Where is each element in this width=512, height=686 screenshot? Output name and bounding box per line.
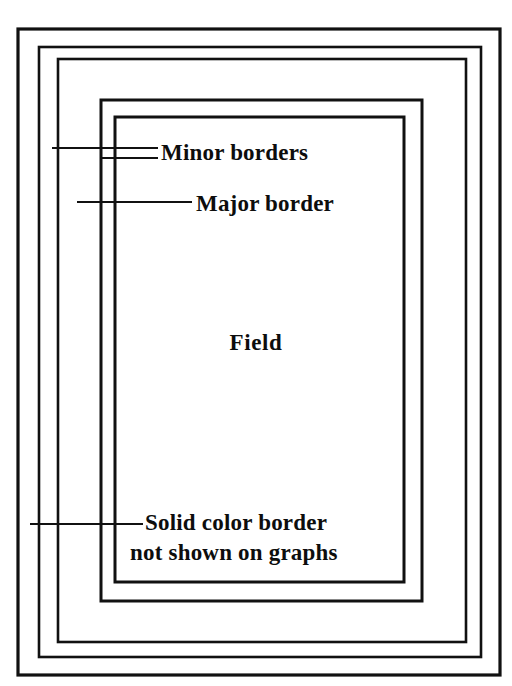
label-solid-color-border: Solid color bordernot shown on graphs: [145, 509, 338, 566]
label-solid-color-border-line-1: Solid color border: [145, 510, 327, 535]
label-field: Field: [0, 329, 512, 356]
border-anatomy-diagram: Minor borders Major border Field Solid c…: [0, 0, 512, 686]
label-minor-borders: Minor borders: [161, 139, 308, 166]
label-solid-color-border-line-2: not shown on graphs: [130, 539, 338, 566]
label-major-border: Major border: [196, 190, 334, 217]
